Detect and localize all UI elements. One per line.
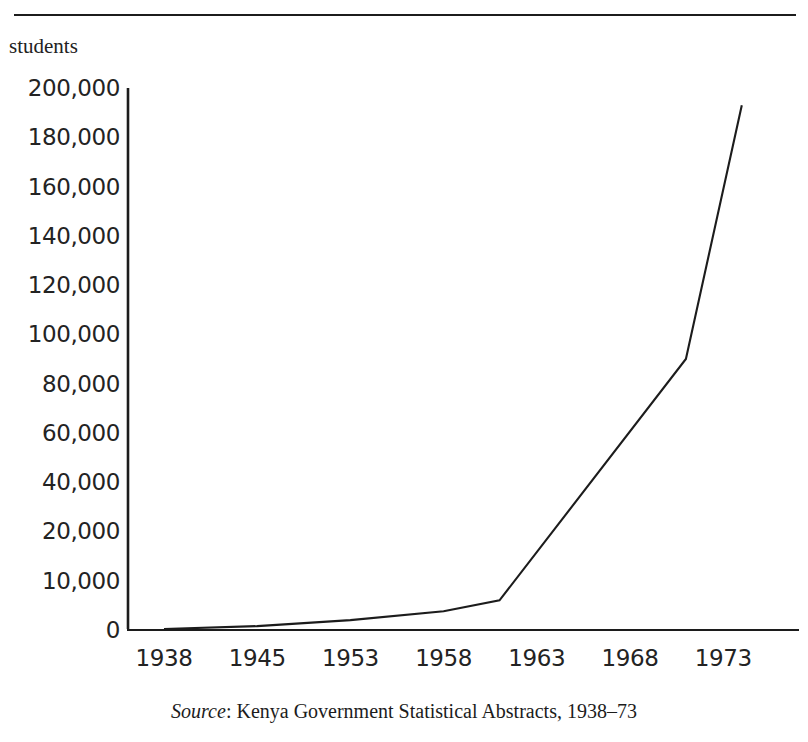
x-axis-tick-labels: 1938194519531958196319681973 <box>0 0 808 742</box>
source-text: Kenya Government Statistical Abstracts, … <box>236 700 636 722</box>
x-tick-label: 1958 <box>415 645 472 671</box>
source-separator: : <box>226 700 237 722</box>
x-tick-label: 1953 <box>322 645 379 671</box>
source-label: Source <box>171 700 226 722</box>
x-tick-label: 1938 <box>136 645 193 671</box>
source-caption: Source: Kenya Government Statistical Abs… <box>0 700 808 723</box>
x-tick-label: 1973 <box>695 645 752 671</box>
x-tick-label: 1968 <box>602 645 659 671</box>
x-tick-label: 1963 <box>508 645 565 671</box>
x-tick-label: 1945 <box>229 645 286 671</box>
